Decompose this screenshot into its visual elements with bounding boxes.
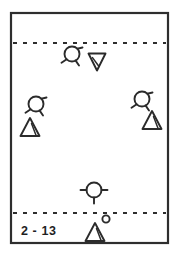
play-diagram-canvas: 2 - 13 <box>0 0 179 263</box>
play-label: 2 - 13 <box>21 224 57 238</box>
play-diagram: 2 - 13 <box>0 0 179 263</box>
